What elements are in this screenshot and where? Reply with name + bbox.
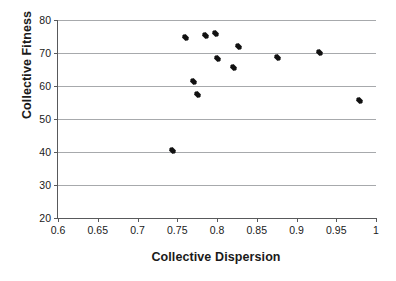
plot-area: 203040506070800.60.650.70.750.80.850.90.…	[57, 20, 376, 219]
y-tick-label: 40	[39, 146, 51, 158]
y-gridline	[58, 86, 376, 87]
data-point	[316, 49, 323, 56]
x-tick-label: 0.95	[326, 224, 346, 236]
x-tick-label: 0.6	[51, 224, 66, 236]
x-tick-mark	[217, 218, 218, 222]
x-tick-mark	[257, 218, 258, 222]
y-tick-mark	[54, 185, 58, 186]
x-tick-mark	[138, 218, 139, 222]
y-gridline	[58, 152, 376, 153]
x-tick-mark	[98, 218, 99, 222]
data-point	[235, 43, 242, 50]
y-tick-mark	[54, 53, 58, 54]
data-point	[214, 55, 221, 62]
x-axis-title: Collective Dispersion	[57, 250, 375, 264]
x-tick-mark	[58, 218, 59, 222]
x-tick-mark	[376, 218, 377, 222]
y-tick-label: 50	[39, 113, 51, 125]
y-tick-mark	[54, 152, 58, 153]
data-point	[190, 78, 197, 85]
scatter-chart-figure: Collective Fitness 203040506070800.60.65…	[0, 0, 396, 281]
x-tick-label: 0.9	[289, 224, 304, 236]
y-tick-mark	[54, 119, 58, 120]
data-point	[194, 91, 201, 98]
x-tick-mark	[177, 218, 178, 222]
data-point	[230, 64, 237, 71]
x-tick-label: 0.8	[210, 224, 225, 236]
data-point	[356, 97, 363, 104]
y-tick-mark	[54, 86, 58, 87]
data-point	[182, 34, 189, 41]
y-gridline	[58, 20, 376, 21]
y-tick-label: 20	[39, 212, 51, 224]
y-tick-label: 30	[39, 179, 51, 191]
data-point	[274, 54, 281, 61]
y-tick-label: 70	[39, 47, 51, 59]
y-tick-label: 60	[39, 80, 51, 92]
x-tick-label: 0.65	[88, 224, 108, 236]
x-tick-label: 1	[373, 224, 379, 236]
data-point	[202, 32, 209, 39]
y-gridline	[58, 185, 376, 186]
x-tick-label: 0.7	[130, 224, 145, 236]
x-tick-label: 0.85	[247, 224, 267, 236]
data-point	[169, 146, 176, 153]
data-point	[212, 30, 219, 37]
x-tick-label: 0.75	[167, 224, 187, 236]
x-tick-mark	[336, 218, 337, 222]
y-tick-mark	[54, 20, 58, 21]
y-gridline	[58, 119, 376, 120]
y-tick-label: 80	[39, 14, 51, 26]
x-tick-mark	[297, 218, 298, 222]
y-axis-title: Collective Fitness	[20, 0, 40, 155]
